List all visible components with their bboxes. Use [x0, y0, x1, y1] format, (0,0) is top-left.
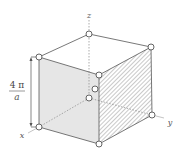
dimension-arrow — [30, 57, 38, 127]
x-axis-label: x — [20, 131, 25, 140]
point-inner-upper — [92, 86, 98, 92]
vertex-top-front — [96, 72, 102, 78]
y-axis-label: y — [167, 118, 173, 127]
z-axis-label: z — [86, 11, 92, 20]
point-origin — [86, 95, 92, 101]
vertex-bottom-front — [96, 141, 102, 147]
vertex-bottom-right — [149, 112, 155, 118]
vertex-bottom-left — [36, 124, 42, 130]
dimension-denominator: a — [14, 92, 19, 102]
dimension-numerator: 4 π — [10, 80, 25, 90]
vertex-top-left — [36, 54, 42, 60]
cube-diagram: 4 π a z y x — [0, 0, 180, 152]
vertex-top-back — [86, 31, 92, 37]
vertex-top-right — [148, 44, 154, 50]
